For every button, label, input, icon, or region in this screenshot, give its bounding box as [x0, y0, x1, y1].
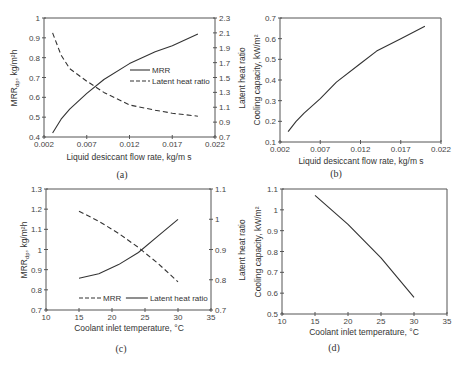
- chart-panel-c: 1015202530350.70.80.911.11.21.30.70.80.9…: [31, 185, 227, 322]
- panel-label-d: (d): [328, 342, 340, 354]
- y-tick-label: 0.7: [31, 306, 43, 315]
- x-axis-label-b: Liquid desiccant flow rate, kg/m s: [298, 156, 423, 166]
- legend-label: MRR: [152, 66, 170, 75]
- x-axis-label-a: Liquid desiccant flow rate, kg/m s: [66, 152, 191, 162]
- legend-label: Latent heat ratio: [152, 77, 210, 86]
- y-axis-label-d: Cooling capacity, kW/m²: [253, 206, 263, 297]
- legend-label: MRR: [103, 294, 121, 303]
- x-tick-label: 30: [410, 317, 419, 326]
- y-tick-label: 0.8: [267, 248, 279, 257]
- panel-label-a: (a): [116, 169, 127, 181]
- series-line-cooling-capacity: [315, 195, 414, 297]
- y-tick-label: 0.9: [267, 227, 279, 236]
- y-tick-label: 0.7: [265, 14, 277, 23]
- x-axis-label-c: Coolant inlet temperature, °C: [74, 323, 184, 333]
- y-right-tick-label: 1.5: [219, 74, 231, 83]
- x-tick-label: 30: [174, 313, 183, 322]
- y-tick-label: 0.9: [29, 34, 41, 43]
- y-right-tick-label: 2.3: [219, 14, 231, 23]
- panel-label-c: (c): [115, 343, 126, 355]
- y-tick-label: 0.5: [29, 113, 41, 122]
- y-right-tick-label: 0.9: [215, 246, 227, 255]
- x-tick-label: 0.007: [310, 145, 331, 154]
- x-tick-label: 25: [377, 317, 386, 326]
- panel-label-b: (b): [330, 168, 342, 180]
- y-tick-label: 1.1: [267, 185, 279, 194]
- figure: 0.0020.0070.0120.0170.0220.40.50.60.70.8…: [0, 0, 464, 367]
- y-tick-label: 0.5: [265, 55, 277, 64]
- y-right-tick-label: 2.1: [219, 29, 231, 38]
- chart-panel-d: 1015202530350.50.60.70.80.911.1: [267, 185, 452, 326]
- y-tick-label: 0.8: [31, 286, 43, 295]
- x-tick-label: 20: [344, 317, 353, 326]
- y-right-tick-label: 1.1: [219, 103, 231, 112]
- y-tick-label: 0.1: [265, 138, 277, 147]
- series-line-cooling-capacity: [288, 26, 425, 131]
- series-line-latent-heat-ratio: [53, 33, 198, 116]
- x-tick-label: 0.022: [431, 145, 452, 154]
- y-tick-label: 0.6: [29, 93, 41, 102]
- y-tick-label: 1: [36, 14, 41, 23]
- legend-label: Latent heat ratio: [150, 294, 208, 303]
- x-axis-label-d: Coolant inlet temperature, °C: [309, 327, 419, 337]
- y-right-tick-label: 0.7: [215, 306, 227, 315]
- y-tick-label: 0.2: [265, 117, 277, 126]
- x-tick-label: 0.012: [119, 140, 140, 149]
- x-tick-label: 25: [141, 313, 150, 322]
- y-right-tick-label: 1: [215, 215, 220, 224]
- y-axis-label-c: MRRdp, kg/m²h: [19, 221, 30, 278]
- y-tick-label: 1.1: [31, 225, 43, 234]
- y-right-axis-label-a: Latent heat ratio: [237, 47, 247, 109]
- y-tick-label: 0.7: [267, 268, 279, 277]
- series-line-latent-heat-ratio: [79, 219, 178, 278]
- y-right-tick-label: 0.7: [219, 133, 231, 142]
- x-tick-label: 0.017: [391, 145, 412, 154]
- y-tick-label: 0.4: [29, 133, 41, 142]
- y-tick-label: 1.3: [31, 185, 43, 194]
- y-tick-label: 0.9: [31, 266, 43, 275]
- y-tick-label: 0.4: [265, 76, 277, 85]
- x-tick-label: 0.007: [77, 140, 98, 149]
- x-tick-label: 0.012: [350, 145, 371, 154]
- y-right-tick-label: 0.8: [215, 276, 227, 285]
- y-tick-label: 0.6: [265, 35, 277, 44]
- x-tick-label: 20: [108, 313, 117, 322]
- x-tick-label: 35: [443, 317, 452, 326]
- y-axis-label-a: MRRdp, kg/m²h: [9, 49, 20, 106]
- y-tick-label: 0.3: [265, 97, 277, 106]
- y-tick-label: 0.6: [267, 289, 279, 298]
- x-tick-label: 0.017: [162, 140, 183, 149]
- x-tick-label: 10: [42, 313, 51, 322]
- y-right-tick-label: 1.1: [215, 185, 227, 194]
- y-axis-label-b: Cooling capacity, kW/m²: [252, 34, 262, 125]
- y-right-tick-label: 1.9: [219, 44, 231, 53]
- x-tick-label: 10: [278, 317, 287, 326]
- y-right-tick-label: 1.7: [219, 59, 231, 68]
- y-right-tick-label: 1.3: [219, 88, 231, 97]
- chart-panel-a: 0.0020.0070.0120.0170.0220.40.50.60.70.8…: [29, 14, 231, 149]
- y-tick-label: 0.7: [29, 74, 41, 83]
- x-tick-label: 15: [75, 313, 84, 322]
- x-tick-label: 15: [311, 317, 320, 326]
- series-line-mrr: [79, 211, 178, 282]
- y-tick-label: 1: [38, 246, 43, 255]
- y-right-tick-label: 0.9: [219, 118, 231, 127]
- y-tick-label: 1.2: [31, 205, 43, 214]
- y-tick-label: 0.8: [29, 54, 41, 63]
- y-right-axis-label-c: Latent heat ratio: [237, 219, 247, 281]
- y-tick-label: 1: [274, 206, 279, 215]
- chart-panel-b: 0.0020.0070.0120.0170.0220.10.20.30.40.5…: [265, 14, 452, 154]
- y-tick-label: 0.5: [267, 310, 279, 319]
